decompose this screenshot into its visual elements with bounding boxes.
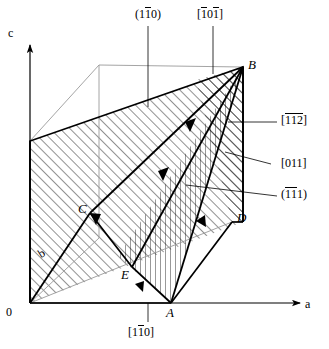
vertex-label-D: D xyxy=(237,211,246,224)
dir1b10-part1: [1 xyxy=(128,325,138,339)
plane110-part3: 0) xyxy=(151,7,161,21)
plane110-part2-overbar: 1 xyxy=(145,8,151,20)
crystal-plane-diagram: (110) [101] [112] [011] (111) [110] c a … xyxy=(0,0,329,349)
dir101-part3-overbar: 1 xyxy=(213,8,219,20)
vertex-label-E: E xyxy=(121,268,129,281)
label-plane-1-1bar-0: (110) xyxy=(135,8,161,20)
dir1b10-part2-overbar: 1 xyxy=(138,326,144,338)
dir101-bracket-close: ] xyxy=(219,7,223,21)
plane111-part3: 1) xyxy=(297,187,307,201)
c-axis-label: c xyxy=(8,27,13,39)
dir011-text: [011] xyxy=(281,156,307,170)
label-direction-1bar-1bar-2bar: [112] xyxy=(281,114,307,126)
plane110-part1: (1 xyxy=(135,7,145,21)
vertex-label-A: A xyxy=(166,306,174,319)
diagram-canvas xyxy=(0,0,329,349)
label-direction-1-1bar-0: [110] xyxy=(128,326,154,338)
label-direction-011: [011] xyxy=(281,157,307,169)
origin-label: 0 xyxy=(6,306,12,318)
dir112-bracket-close: ] xyxy=(303,113,307,127)
vertex-label-C: C xyxy=(78,202,87,215)
dir1b10-part3: 0] xyxy=(144,325,154,339)
arrowhead-toward-A xyxy=(135,281,144,292)
plane111-part2-overbar: 1 xyxy=(291,188,297,200)
dir101-part1-overbar: 1 xyxy=(201,8,207,20)
label-direction-1bar-0-1bar: [101] xyxy=(197,8,223,20)
dir112-part3-overbar: 2 xyxy=(297,114,303,126)
a-axis-label: a xyxy=(305,298,310,310)
vertex-label-B: B xyxy=(248,58,256,71)
label-plane-1bar-1bar-1: (111) xyxy=(281,188,307,200)
